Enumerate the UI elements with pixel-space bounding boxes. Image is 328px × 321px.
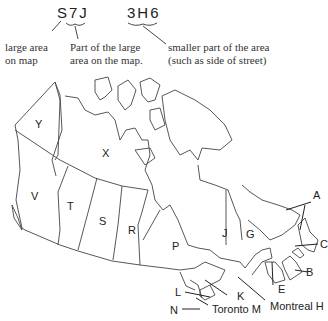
brace-3h6 bbox=[128, 23, 157, 25]
label-ontario: P bbox=[172, 240, 179, 252]
label-sask: S bbox=[99, 215, 106, 227]
label-newfoundland: A bbox=[313, 189, 321, 201]
label-manitoba: R bbox=[128, 224, 136, 236]
label-toronto: Toronto M bbox=[212, 303, 261, 315]
label-central-ontario: L bbox=[175, 286, 181, 298]
label-new-brunswick: E bbox=[278, 283, 285, 295]
label-quebec-east: G bbox=[246, 228, 255, 240]
brace-7j bbox=[66, 23, 85, 25]
pointer-a2 bbox=[300, 205, 305, 230]
pointer-part-of-area bbox=[75, 26, 78, 39]
pointer-large-area bbox=[52, 21, 61, 31]
pointer-c bbox=[295, 244, 318, 246]
label-quebec: J bbox=[222, 227, 228, 239]
label-nwt: X bbox=[102, 147, 110, 159]
label-montreal: Montreal H bbox=[270, 300, 324, 312]
label-southwest-ontario: N bbox=[170, 304, 178, 316]
label-alberta: T bbox=[67, 200, 74, 212]
label-nova-scotia: B bbox=[306, 266, 313, 278]
label-yukon: Y bbox=[35, 118, 43, 130]
canada-postal-map: Y X V T S R P J G A C B E Montreal H K L… bbox=[0, 0, 328, 321]
label-bc: V bbox=[31, 190, 39, 202]
pointer-e bbox=[272, 262, 273, 285]
pointer-smaller-part bbox=[143, 26, 166, 44]
pointer-l bbox=[185, 292, 210, 297]
label-pei: C bbox=[320, 238, 328, 250]
pointer-a bbox=[286, 202, 311, 210]
label-eastern-ontario: K bbox=[237, 290, 245, 302]
